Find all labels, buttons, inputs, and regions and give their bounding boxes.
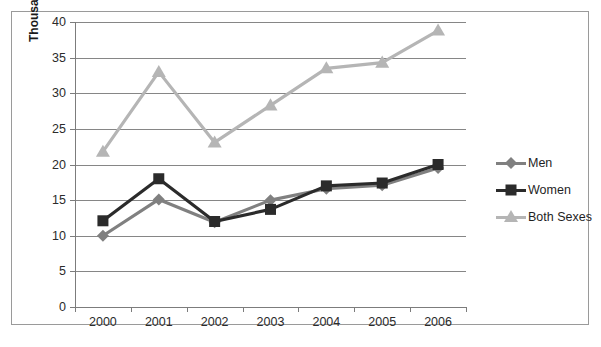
- data-point-marker: [152, 65, 166, 77]
- legend-marker-square-icon: [503, 182, 519, 198]
- x-tick-mark: [187, 307, 188, 312]
- x-tick-label: 2006: [408, 316, 468, 328]
- y-axis-title: Thousands: [27, 0, 41, 42]
- y-tick-label: 30: [42, 87, 66, 99]
- x-tick-mark: [131, 307, 132, 312]
- y-tick-label: 10: [42, 230, 66, 242]
- data-point-marker: [321, 180, 332, 191]
- data-point-marker: [97, 215, 108, 226]
- data-point-marker: [433, 159, 444, 170]
- data-point-marker: [264, 98, 278, 110]
- data-point-marker: [153, 173, 164, 184]
- x-tick-label: 2004: [296, 316, 356, 328]
- legend-swatch: [496, 211, 526, 223]
- x-tick-mark: [354, 307, 355, 312]
- x-tick-mark: [410, 307, 411, 312]
- x-tick-mark: [243, 307, 244, 312]
- legend-label: Women: [528, 183, 571, 197]
- legend-marker-triangle-icon: [503, 209, 519, 225]
- legend-marker-diamond-icon: [503, 155, 519, 171]
- series-line-both-sexes: [103, 31, 438, 152]
- x-tick-label: 2000: [73, 316, 133, 328]
- y-tick-label: 25: [42, 123, 66, 135]
- data-point-marker: [431, 24, 445, 36]
- legend-item-women[interactable]: Women: [496, 176, 588, 203]
- data-point-marker: [209, 216, 220, 227]
- y-tick-label: 0: [42, 301, 66, 313]
- y-tick-label: 15: [42, 194, 66, 206]
- legend-swatch: [496, 184, 526, 196]
- x-tick-label: 2005: [352, 316, 412, 328]
- chart-frame: Thousands 0510152025303540 2000200120022…: [11, 11, 589, 325]
- x-tick-mark: [75, 307, 76, 312]
- chart-legend: MenWomenBoth Sexes: [496, 149, 588, 230]
- y-tick-label: 5: [42, 265, 66, 277]
- legend-item-men[interactable]: Men: [496, 149, 588, 176]
- legend-label: Men: [528, 156, 552, 170]
- plot-area: [75, 22, 466, 307]
- x-tick-mark: [466, 307, 467, 312]
- x-tick-label: 2002: [185, 316, 245, 328]
- x-axis-line: [75, 307, 466, 308]
- y-tick-label: 35: [42, 52, 66, 64]
- x-tick-mark: [298, 307, 299, 312]
- series-lines: [75, 22, 466, 307]
- y-tick-label: 40: [42, 16, 66, 28]
- legend-item-both-sexes[interactable]: Both Sexes: [496, 203, 588, 230]
- data-point-marker: [377, 178, 388, 189]
- legend-swatch: [496, 157, 526, 169]
- x-tick-label: 2001: [129, 316, 189, 328]
- y-tick-label: 20: [42, 159, 66, 171]
- x-tick-label: 2003: [241, 316, 301, 328]
- legend-label: Both Sexes: [528, 210, 592, 224]
- data-point-marker: [265, 204, 276, 215]
